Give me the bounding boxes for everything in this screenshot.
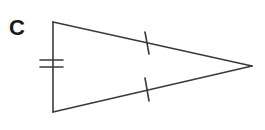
isosceles-triangle-diagram <box>0 0 265 130</box>
top-side <box>53 22 252 66</box>
double-tick-mark <box>40 60 63 67</box>
bottom-side <box>53 66 252 112</box>
